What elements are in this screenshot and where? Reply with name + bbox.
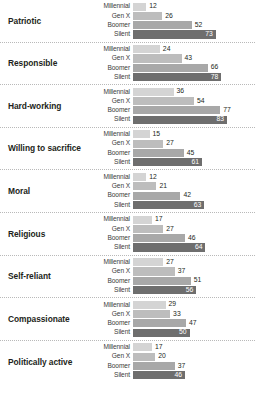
generation-label: Millennial [86, 46, 133, 53]
generation-label: Millennial [86, 344, 133, 351]
bar-track: 46 [133, 234, 256, 243]
bar-value-label: 15 [150, 131, 161, 138]
bar-track: 42 [133, 191, 256, 200]
bar-value-label: 66 [208, 64, 219, 71]
generation-label: Silent [86, 74, 133, 81]
chart-group: ReligiousMillennial17Gen X27Boomer46Sile… [0, 213, 255, 256]
bar-value-label: 37 [175, 363, 186, 370]
category-label: Patriotic [0, 16, 86, 26]
bar-value-label: 45 [184, 150, 195, 157]
generation-label: Silent [86, 159, 133, 166]
bar-row: Gen X26 [86, 11, 255, 20]
bar [133, 258, 164, 266]
bar [133, 54, 182, 62]
bar-track: 29 [133, 300, 256, 309]
bar-value-label: 17 [152, 216, 163, 223]
bar-value-label: 56 [186, 287, 197, 294]
bar-row: Boomer51 [86, 276, 255, 285]
bar-track: 17 [133, 215, 256, 224]
bar-group: Millennial12Gen X21Boomer42Silent63 [86, 170, 255, 212]
bar-value-label: 26 [162, 13, 173, 20]
bar-row: Millennial17 [86, 215, 255, 224]
bar-row: Millennial29 [86, 300, 255, 309]
generation-label: Boomer [86, 278, 133, 285]
bar-value-label: 20 [155, 353, 166, 360]
bar [133, 3, 147, 11]
bar-group: Millennial12Gen X26Boomer52Silent73 [86, 0, 255, 42]
bar-track: 64 [133, 243, 256, 252]
category-label: Willing to sacrifice [0, 143, 86, 153]
bar [133, 130, 150, 138]
generation-label: Silent [86, 31, 133, 38]
chart-group: Self-reliantMillennial27Gen X37Boomer51S… [0, 256, 255, 299]
generation-label: Silent [86, 116, 133, 123]
bar [133, 73, 222, 81]
generation-label: Boomer [86, 150, 133, 157]
bar-value-label: 47 [186, 320, 197, 327]
bar-row: Millennial12 [86, 2, 255, 11]
bar-value-label: 64 [195, 244, 206, 251]
bar-track: 52 [133, 21, 256, 30]
generation-label: Silent [86, 372, 133, 379]
bar [133, 319, 187, 327]
generation-label: Boomer [86, 107, 133, 114]
bar [133, 140, 164, 148]
bar-row: Boomer37 [86, 361, 255, 370]
generation-label: Boomer [86, 320, 133, 327]
bar-track: 37 [133, 267, 256, 276]
generation-label: Millennial [86, 174, 133, 181]
bar-track: 54 [133, 96, 256, 105]
bar-track: 50 [133, 328, 256, 337]
bar-track: 43 [133, 54, 256, 63]
bar [133, 234, 185, 242]
bar-value-label: 12 [146, 174, 157, 181]
generation-label: Gen X [86, 140, 133, 147]
bar-track: 20 [133, 352, 256, 361]
grouped-bar-chart: PatrioticMillennial12Gen X26Boomer52Sile… [0, 0, 255, 399]
generation-label: Millennial [86, 3, 133, 10]
category-label: Religious [0, 229, 86, 239]
bar-track: 47 [133, 319, 256, 328]
generation-label: Gen X [86, 55, 133, 62]
bar-value-label: 52 [192, 22, 203, 29]
bar-value-label: 37 [175, 268, 186, 275]
bar-track: 17 [133, 343, 256, 352]
bar [133, 97, 195, 105]
generation-label: Gen X [86, 353, 133, 360]
bar [133, 64, 208, 72]
category-label: Politically active [0, 357, 86, 367]
bar-row: Boomer66 [86, 63, 255, 72]
bar [133, 310, 171, 318]
category-label: Moral [0, 186, 86, 196]
bar [133, 301, 166, 309]
bar-value-label: 51 [191, 277, 202, 284]
bar-group: Millennial17Gen X27Boomer46Silent64 [86, 213, 255, 255]
bar-row: Gen X27 [86, 224, 255, 233]
bar-value-label: 36 [174, 88, 185, 95]
bar-value-label: 77 [220, 107, 231, 114]
chart-group: Willing to sacrificeMillennial15Gen X27B… [0, 128, 255, 171]
bar-track: 37 [133, 361, 256, 370]
bar [133, 182, 157, 190]
bar-track: 15 [133, 130, 256, 139]
bar-row: Boomer47 [86, 319, 255, 328]
generation-label: Gen X [86, 183, 133, 190]
bar-row: Boomer45 [86, 148, 255, 157]
category-label: Self-reliant [0, 271, 86, 281]
bar [133, 277, 191, 285]
chart-groups-container: PatrioticMillennial12Gen X26Boomer52Sile… [0, 0, 255, 383]
chart-group: Politically activeMillennial17Gen X20Boo… [0, 341, 255, 384]
bar-row: Silent46 [86, 371, 255, 380]
bar-track: 36 [133, 87, 256, 96]
bar [133, 216, 152, 224]
category-label: Compassionate [0, 314, 86, 324]
bar-track: 27 [133, 139, 256, 148]
bar-track: 56 [133, 285, 256, 294]
generation-label: Boomer [86, 65, 133, 72]
bar-row: Millennial27 [86, 258, 255, 267]
generation-label: Millennial [86, 131, 133, 138]
bar-value-label: 21 [156, 183, 167, 190]
bar [133, 106, 221, 114]
bar [133, 149, 184, 157]
bar-track: 45 [133, 148, 256, 157]
